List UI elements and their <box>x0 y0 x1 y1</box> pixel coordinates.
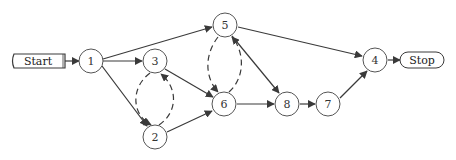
start-label: Start <box>24 55 53 68</box>
node-6: 6 <box>212 92 236 116</box>
node-2: 2 <box>143 125 167 149</box>
node-5: 5 <box>213 13 237 37</box>
edge-7-4 <box>340 71 367 98</box>
node-8-label: 8 <box>284 98 291 111</box>
nodes: 1 3 5 6 2 8 7 4 <box>79 13 387 149</box>
node-8: 8 <box>275 92 299 116</box>
edge-5-8 <box>232 36 279 93</box>
node-3-label: 3 <box>152 55 159 68</box>
edge-5-6-dashed <box>208 37 218 92</box>
edge-5-4 <box>238 27 362 56</box>
node-1: 1 <box>79 49 103 73</box>
edges <box>65 27 400 132</box>
node-5-label: 5 <box>222 19 229 32</box>
node-7: 7 <box>316 92 340 116</box>
edge-2-6 <box>167 111 212 132</box>
edge-1-2 <box>102 66 147 126</box>
stop-terminal: Stop <box>400 52 444 68</box>
node-4: 4 <box>363 48 387 72</box>
flow-diagram: Start Stop 1 3 5 6 2 8 <box>0 0 456 160</box>
node-3: 3 <box>143 49 167 73</box>
edge-2-3-dashed <box>159 74 174 125</box>
node-6-label: 6 <box>221 98 228 111</box>
start-terminal: Start <box>13 54 66 68</box>
edge-3-2-dashed <box>136 73 151 125</box>
node-2-label: 2 <box>152 131 159 144</box>
stop-label: Stop <box>409 54 435 67</box>
node-7-label: 7 <box>325 98 332 111</box>
node-4-label: 4 <box>372 54 379 67</box>
edge-3-6 <box>165 69 213 97</box>
node-1-label: 1 <box>88 55 95 68</box>
